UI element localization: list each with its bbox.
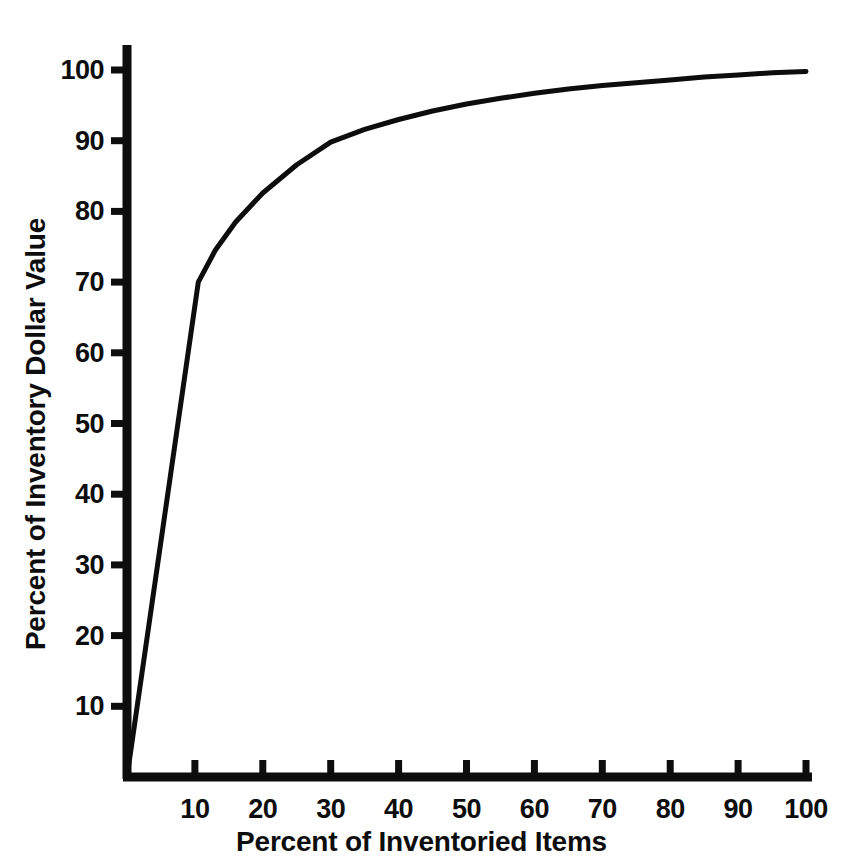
y-axis-tick-label: 60 (40, 339, 104, 366)
x-axis-tick-label: 100 (784, 796, 828, 823)
x-axis-tick-label: 60 (520, 796, 549, 823)
y-axis-tick-label: 50 (40, 410, 104, 437)
x-axis-tick-label: 70 (588, 796, 617, 823)
chart-series-group (127, 71, 806, 777)
chart-plot-area (0, 0, 843, 868)
x-axis-title: Percent of Inventoried Items (0, 828, 843, 856)
x-axis-tick-label: 50 (452, 796, 481, 823)
x-axis-tick-label: 20 (248, 796, 277, 823)
x-axis-tick-label: 30 (316, 796, 345, 823)
x-axis-tick-label: 40 (384, 796, 413, 823)
y-axis-tick-label: 20 (40, 622, 104, 649)
y-axis-tick-label: 70 (40, 269, 104, 296)
y-axis-tick-label: 80 (40, 198, 104, 225)
y-axis-tick-label: 100 (40, 57, 104, 84)
x-axis-title-text: Percent of Inventoried Items (236, 826, 607, 857)
x-axis-tick-label: 80 (656, 796, 685, 823)
y-axis-tick-label: 40 (40, 481, 104, 508)
chart-figure: 102030405060708090100 102030405060708090… (0, 0, 843, 868)
y-axis-tick-label: 30 (40, 551, 104, 578)
x-axis-tick-label: 10 (180, 796, 209, 823)
y-axis-tick-label: 90 (40, 127, 104, 154)
chart-axes (123, 45, 812, 779)
x-axis-tick-label: 90 (724, 796, 753, 823)
y-axis-tick-label: 10 (40, 693, 104, 720)
data-series-line (127, 71, 806, 777)
